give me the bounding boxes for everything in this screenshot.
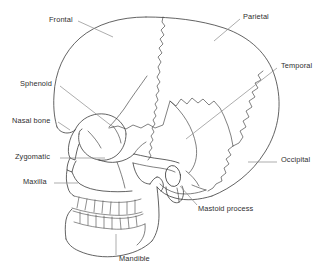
label-parietal: Parietal <box>243 13 269 20</box>
mandible-ramus-posterior <box>152 187 159 241</box>
upper-teeth-crown-line <box>72 208 142 215</box>
leader-nasal-bone <box>58 122 70 130</box>
label-nasal-bone: Nasal bone <box>12 117 50 124</box>
external-auditory-meatus <box>164 165 182 188</box>
zygomatic-arch-lower <box>133 163 175 172</box>
frontal-bone-suture <box>109 76 147 127</box>
upper-tooth-divider-3 <box>94 200 95 212</box>
mandible-inner-body-line <box>137 224 145 245</box>
leader-mastoid-process <box>180 186 197 205</box>
leader-frontal <box>78 21 113 37</box>
superior-orbital-fissure <box>113 126 121 143</box>
occipital-base-curve <box>157 187 212 200</box>
lambdoid-suture <box>208 146 233 191</box>
nasal-bone-outline <box>68 130 79 160</box>
lower-alveolar-arch <box>74 222 145 229</box>
lower-tooth-divider-7 <box>128 217 129 228</box>
leader-sphenoid <box>60 86 113 127</box>
label-sphenoid: Sphenoid <box>20 80 52 87</box>
orbit-interior-detail <box>88 131 101 148</box>
squamosal-suture <box>109 98 233 146</box>
coronal-suture <box>148 17 165 160</box>
mandibular-notch <box>150 177 157 184</box>
temporal-squama-arc <box>170 101 197 173</box>
leader-lines-group <box>54 19 277 255</box>
mandible-symphysis-anterior <box>65 209 72 239</box>
label-maxilla: Maxilla <box>23 178 47 185</box>
zygomatic-arch <box>134 154 179 163</box>
maxilla-zygomatic-process <box>117 162 125 188</box>
orbit-medial-margin <box>79 129 82 134</box>
lower-tooth-divider-8 <box>136 216 137 226</box>
label-temporal: Temporal <box>281 62 312 69</box>
upper-teeth-group <box>72 196 142 215</box>
label-zygomatic: Zygomatic <box>15 153 50 160</box>
upper-tooth-divider-5 <box>110 202 111 214</box>
zygomaticotemporal-suture <box>134 142 146 154</box>
upper-tooth-divider-2 <box>85 199 87 210</box>
leader-temporal <box>186 68 277 139</box>
maxilla-outline <box>72 172 132 192</box>
cranial-vault-outline <box>54 17 146 127</box>
orbit-lateral-margin <box>99 134 126 160</box>
orbit-inferior-margin <box>79 134 99 160</box>
lower-tooth-divider-6 <box>120 218 121 229</box>
skull-diagram-figure: Frontal Parietal Temporal Sphenoid Nasal… <box>0 0 321 277</box>
styloid-process <box>177 188 179 202</box>
label-mandible: Mandible <box>119 255 150 262</box>
upper-alveolar-arch <box>74 196 141 202</box>
label-occipital: Occipital <box>281 156 310 163</box>
leader-parietal <box>214 19 240 41</box>
temporal-petrous-detail <box>186 171 199 186</box>
skull-drawing-svg <box>0 0 321 277</box>
upper-tooth-divider-1 <box>77 197 79 208</box>
label-frontal: Frontal <box>49 16 73 23</box>
label-mastoid-process: Mastoid process <box>198 205 253 212</box>
upper-tooth-divider-4 <box>102 201 103 213</box>
mastoid-process-outline <box>166 186 184 203</box>
forehead-glabella-profile <box>57 127 75 133</box>
